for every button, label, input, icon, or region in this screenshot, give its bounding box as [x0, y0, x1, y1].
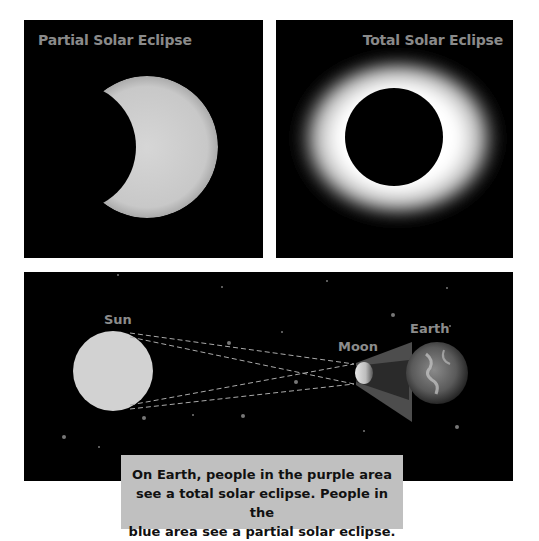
total-eclipse-image — [276, 20, 513, 258]
caption-line: On Earth, people in the purple area — [127, 465, 397, 484]
earth — [406, 342, 468, 404]
sun — [73, 331, 153, 411]
total-eclipse-title: Total Solar Eclipse — [363, 32, 503, 48]
moon-label: Moon — [338, 339, 378, 354]
caption-box: On Earth, people in the purple area see … — [121, 455, 403, 529]
earth-label: Earth — [410, 321, 450, 336]
moon — [355, 362, 373, 384]
sun-crescent — [76, 76, 218, 218]
eclipse-diagram — [24, 272, 513, 481]
light-rays — [130, 333, 354, 409]
moon-disc — [345, 88, 443, 186]
caption-line: blue area see a partial solar eclipse. — [127, 522, 397, 541]
total-eclipse-panel: Total Solar Eclipse — [276, 20, 513, 258]
eclipse-diagram-panel: Sun Moon Earth — [24, 272, 513, 481]
partial-eclipse-panel: Partial Solar Eclipse — [24, 20, 263, 258]
partial-eclipse-title: Partial Solar Eclipse — [38, 32, 192, 48]
sun-label: Sun — [104, 312, 132, 327]
partial-eclipse-image — [24, 20, 263, 258]
caption-line: see a total solar eclipse. People in the — [127, 484, 397, 522]
